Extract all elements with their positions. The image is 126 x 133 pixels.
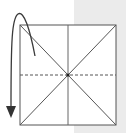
origami-diagram	[0, 0, 126, 133]
center-point	[66, 73, 69, 76]
arrow-head-icon	[6, 106, 16, 118]
